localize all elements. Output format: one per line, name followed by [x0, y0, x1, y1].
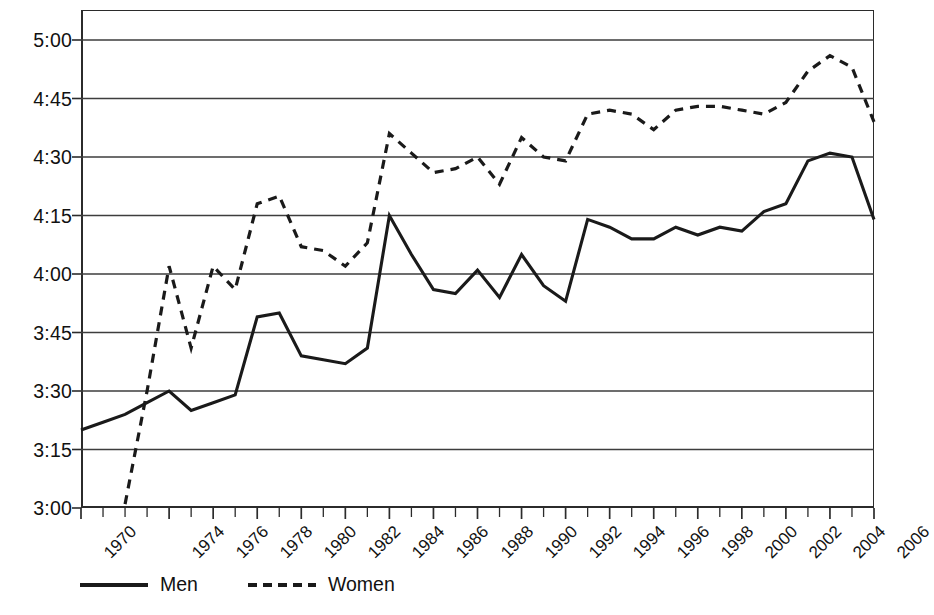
x-tick-label: 1976 — [232, 522, 273, 563]
x-tick-label: 1978 — [276, 522, 317, 563]
legend-label-women: Women — [328, 575, 395, 595]
y-tick-label: 3:30 — [33, 380, 72, 403]
legend-swatch-women-icon — [246, 578, 318, 592]
y-tick-label: 4:00 — [33, 263, 72, 286]
y-axis-ticks — [72, 40, 81, 508]
y-tick-label: 3:45 — [33, 321, 72, 344]
x-tick-label: 1984 — [408, 522, 449, 563]
x-tick-label: 1988 — [497, 522, 538, 563]
y-tick-label: 4:30 — [33, 146, 72, 169]
chart-legend: Men Women — [78, 575, 395, 595]
x-tick-label: 1986 — [453, 522, 494, 563]
x-tick-label: 1982 — [364, 522, 405, 563]
legend-entry-men: Men — [78, 575, 198, 595]
legend-swatch-men-icon — [78, 578, 150, 592]
x-tick-label: 1992 — [585, 522, 626, 563]
x-tick-label: 1998 — [717, 522, 758, 563]
legend-label-men: Men — [160, 575, 198, 595]
x-tick-label: 2006 — [893, 522, 934, 563]
x-tick-label: 2000 — [761, 522, 802, 563]
y-tick-label: 3:15 — [33, 438, 72, 461]
legend-entry-women: Women — [246, 575, 395, 595]
plot-area — [81, 10, 874, 508]
chart-title — [0, 0, 911, 2]
x-tick-label: 1970 — [100, 522, 141, 563]
y-tick-label: 5:00 — [33, 29, 72, 52]
x-tick-label: 1980 — [320, 522, 361, 563]
x-tick-label: 1996 — [673, 522, 714, 563]
y-tick-label: 3:00 — [33, 497, 72, 520]
x-tick-label: 2004 — [849, 522, 890, 563]
y-axis-labels: 5:004:454:304:154:003:453:303:153:00 — [0, 0, 72, 615]
x-tick-label: 1974 — [188, 522, 229, 563]
x-axis-ticks — [81, 508, 874, 519]
y-tick-label: 4:15 — [33, 204, 72, 227]
x-tick-label: 2002 — [805, 522, 846, 563]
x-tick-label: 1994 — [629, 522, 670, 563]
y-tick-label: 4:45 — [33, 87, 72, 110]
x-tick-label: 1990 — [541, 522, 582, 563]
